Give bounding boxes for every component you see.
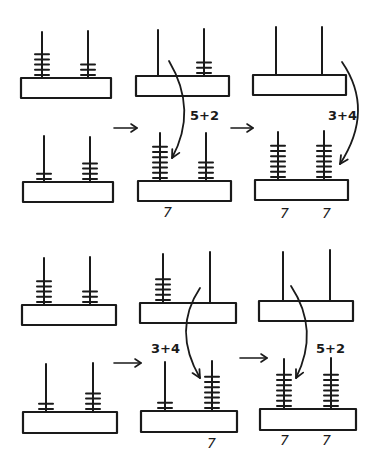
abacus-bottom xyxy=(260,358,356,430)
rod-tens xyxy=(271,132,285,180)
abacus-base xyxy=(260,409,356,430)
abacus-base xyxy=(23,182,113,202)
abacus-top xyxy=(136,29,229,96)
rod-ones xyxy=(324,358,338,409)
abacus-base xyxy=(259,301,353,321)
abacus-top xyxy=(22,257,116,325)
rod-ones xyxy=(81,31,95,78)
frame-2: 73+4 xyxy=(140,252,237,451)
sum-label: 7 xyxy=(280,205,289,221)
rod-ones xyxy=(317,131,331,180)
abacus-addition-diagram: 75+2773+473+4775+2 xyxy=(0,0,377,471)
equation-label: 3+4 xyxy=(151,341,180,356)
diagram-content: 75+2773+473+4775+2 xyxy=(21,27,358,451)
rod-tens xyxy=(156,254,170,303)
abacus-base xyxy=(255,180,348,200)
abacus-top xyxy=(259,250,353,321)
equation-label: 3+4 xyxy=(328,108,357,123)
abacus-bottom xyxy=(138,133,231,201)
frame-2: 75+2 xyxy=(136,29,231,220)
frame-1 xyxy=(21,31,113,202)
rod-tens xyxy=(277,359,291,409)
rod-ones xyxy=(199,133,213,181)
abacus-bottom xyxy=(141,361,237,432)
sum-label: 7 xyxy=(207,435,216,451)
abacus-base xyxy=(253,75,346,95)
rod-ones xyxy=(205,361,219,411)
abacus-bottom xyxy=(23,363,117,433)
equation-label: 5+2 xyxy=(190,108,219,123)
abacus-bottom xyxy=(23,136,113,202)
abacus-top xyxy=(21,31,111,98)
frame-3: 775+2 xyxy=(259,250,356,448)
sequence-ones-first: 73+4775+2 xyxy=(22,250,356,451)
rod-tens xyxy=(37,258,51,305)
sum-label: 7 xyxy=(322,432,331,448)
transfer-curve-arrow xyxy=(186,288,200,378)
abacus-base xyxy=(21,78,111,98)
abacus-base xyxy=(138,181,231,201)
step-arrow-icon xyxy=(114,124,137,132)
sequence-tens-first: 75+2773+4 xyxy=(21,27,358,221)
abacus-base xyxy=(141,411,237,432)
frame-3: 773+4 xyxy=(253,27,358,221)
step-arrow-icon xyxy=(240,354,267,362)
abacus-base xyxy=(23,412,117,433)
abacus-bottom xyxy=(255,131,348,200)
frame-1 xyxy=(22,257,117,433)
rod-tens xyxy=(39,364,53,412)
sum-label: 7 xyxy=(280,432,289,448)
step-arrow-icon xyxy=(231,124,253,132)
rod-tens xyxy=(158,362,172,411)
rod-ones xyxy=(86,363,100,412)
abacus-base xyxy=(22,305,116,325)
transfer-curve-arrow xyxy=(291,286,307,378)
rod-tens xyxy=(153,133,167,181)
rod-ones xyxy=(83,257,97,305)
rod-tens xyxy=(37,136,51,182)
step-arrow-icon xyxy=(114,359,141,367)
sum-label: 7 xyxy=(322,205,331,221)
equation-label: 5+2 xyxy=(316,341,345,356)
rod-ones xyxy=(83,137,97,182)
abacus-top xyxy=(253,27,346,95)
rod-ones xyxy=(197,29,211,76)
rod-tens xyxy=(35,32,49,78)
sum-label: 7 xyxy=(163,204,172,220)
